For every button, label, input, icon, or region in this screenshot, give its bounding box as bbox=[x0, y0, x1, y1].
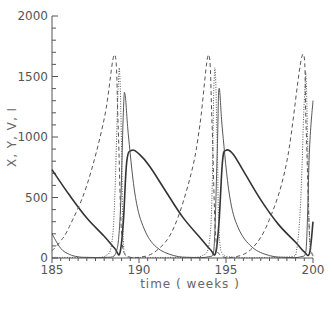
y-axis-label: X, Y, V, I bbox=[5, 107, 19, 167]
x-axis-label: time ( weeks ) bbox=[140, 277, 240, 291]
y-tick-label: 1500 bbox=[17, 70, 48, 84]
series-line-v bbox=[52, 54, 313, 258]
series-group bbox=[52, 54, 313, 258]
series-line-y bbox=[52, 88, 313, 257]
y-tick-label: 2000 bbox=[17, 9, 48, 23]
axes: 0500100015002000185190195200 bbox=[17, 9, 324, 277]
series-line-i bbox=[52, 68, 313, 258]
x-tick-label: 195 bbox=[215, 263, 238, 277]
x-tick-label: 185 bbox=[41, 263, 64, 277]
x-tick-label: 190 bbox=[128, 263, 151, 277]
y-tick-label: 500 bbox=[25, 191, 48, 205]
chart: 0500100015002000185190195200 time ( week… bbox=[0, 0, 332, 325]
y-tick-label: 1000 bbox=[17, 130, 48, 144]
x-tick-label: 200 bbox=[302, 263, 325, 277]
